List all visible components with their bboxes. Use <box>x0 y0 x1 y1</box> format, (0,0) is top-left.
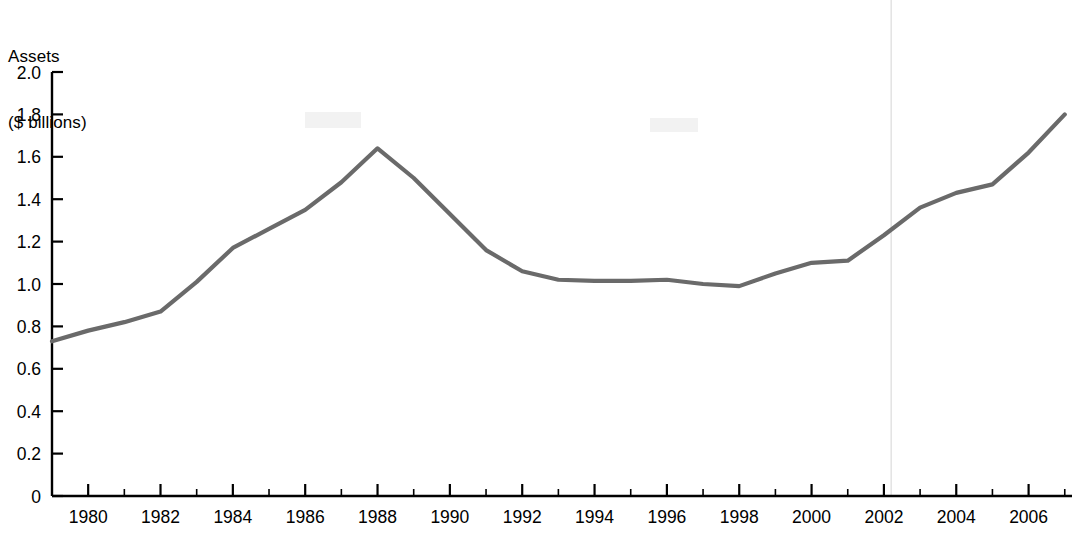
x-tick-label: 2004 <box>937 507 976 527</box>
x-tick-label: 2002 <box>864 507 903 527</box>
y-tick-label: 0.8 <box>17 317 41 337</box>
assets-series-line <box>52 114 1065 341</box>
x-tick-label: 1986 <box>286 507 325 527</box>
y-tick-label: 0.2 <box>17 444 41 464</box>
y-tick-label: 1.8 <box>17 105 41 125</box>
y-tick-label: 1.6 <box>17 147 41 167</box>
x-tick-label: 2000 <box>792 507 831 527</box>
x-tick-label: 1984 <box>213 507 252 527</box>
y-tick-label: 2.0 <box>17 63 42 83</box>
x-tick-label: 1992 <box>503 507 542 527</box>
x-tick-label: 1990 <box>430 507 469 527</box>
x-tick-label: 1980 <box>69 507 108 527</box>
y-axis-tick-labels: 2.01.81.61.41.21.00.80.60.40.20 <box>17 63 42 507</box>
line-chart-plot: 2.01.81.61.41.21.00.80.60.40.20 19801982… <box>0 0 1072 533</box>
x-axis-tick-labels: 1980198219841986198819901992199419961998… <box>69 507 1048 527</box>
x-tick-label: 2006 <box>1009 507 1048 527</box>
y-tick-label: 0 <box>31 487 41 507</box>
y-tick-label: 0.4 <box>17 402 42 422</box>
x-axis-ticks <box>52 484 1065 496</box>
smudge-artifacts <box>305 112 698 132</box>
x-tick-label: 1982 <box>141 507 180 527</box>
y-axis-ticks <box>52 72 63 496</box>
chart-container: Assets ($ billions) 2.01.81.61.41.21.00.… <box>0 0 1072 533</box>
x-tick-label: 1994 <box>575 507 614 527</box>
x-tick-label: 1988 <box>358 507 397 527</box>
x-tick-label: 1996 <box>647 507 686 527</box>
y-tick-label: 1.0 <box>17 275 42 295</box>
x-tick-label: 1998 <box>720 507 759 527</box>
y-tick-label: 1.4 <box>17 190 42 210</box>
y-tick-label: 1.2 <box>17 232 41 252</box>
y-tick-label: 0.6 <box>17 359 41 379</box>
